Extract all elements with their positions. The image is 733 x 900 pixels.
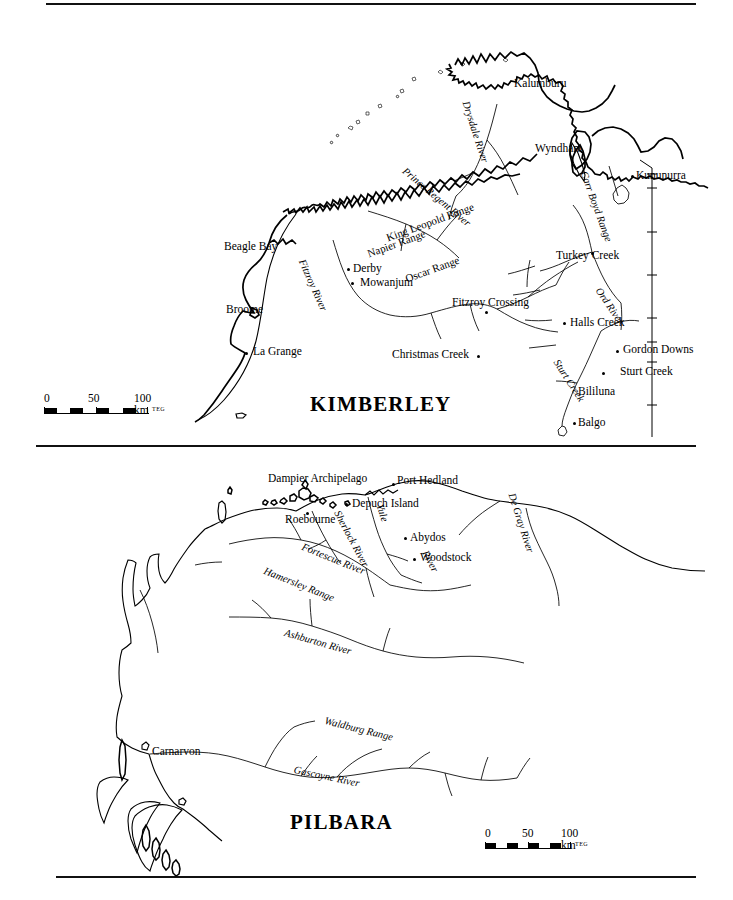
interior-drainage-4: [529, 345, 556, 348]
barrow-island: [218, 501, 226, 523]
yule-tributary-2: [401, 575, 422, 583]
kimberley-title: KIMBERLEY: [310, 392, 452, 417]
settlement-label-la-grange: La Grange: [253, 346, 302, 358]
settlement-label-dampier-archipelago: Dampier Archipelago: [268, 473, 367, 485]
port-hedland-coast-detail: [365, 490, 398, 495]
kimberley-northeast-coast: [592, 127, 683, 159]
de-grey-tributary: [459, 501, 500, 535]
carr-boyd-range-line: [609, 166, 618, 196]
interior-line-p2: [481, 757, 488, 780]
settlement-label-abydos: Abydos: [410, 532, 446, 544]
map-artwork: [0, 0, 733, 900]
scale-mid: 50: [88, 392, 100, 404]
interior-drainage-3: [525, 320, 552, 321]
settlement-label-gordon-downs: Gordon Downs: [623, 344, 694, 356]
pilbara-title: PILBARA: [290, 810, 393, 835]
settlement-label-beagle-bay: Beagle Bay: [224, 241, 277, 253]
scale-zero: 0: [44, 392, 50, 404]
sturt-creek-terminus: [558, 426, 567, 436]
gascoyne-trib-3: [409, 752, 430, 768]
pilbara-scale-numbers: 0 50 100 km: [485, 827, 571, 841]
settlement-label-balgo: Balgo: [578, 417, 605, 429]
interior-line-p3: [517, 758, 530, 778]
de-grey-river: [526, 508, 559, 606]
kimberley-fractal-coast: [283, 174, 520, 213]
north-west-cape: [122, 529, 205, 606]
interior-drainage-5: [527, 260, 530, 287]
settlement-label-kalumburu: Kalumburu: [514, 78, 566, 90]
waldburg-range-line: [294, 721, 315, 727]
fitzroy-tributary-1: [431, 313, 441, 339]
settlement-label-christmas-creek: Christmas Creek: [392, 349, 469, 361]
settlement-label-broome: Broome: [226, 304, 263, 316]
settlement-label-wyndham: Wyndham: [535, 143, 582, 155]
settlement-label-sturt-creek: Sturt Creek: [620, 366, 673, 378]
ashburton-trib-1: [310, 599, 312, 626]
settlement-label-roebourne: Roebourne: [285, 514, 335, 526]
state-border-line-upper: [640, 160, 652, 168]
kimberley-scale-credit: TEG: [152, 406, 165, 412]
settlement-label-carnarvon: Carnarvon: [152, 746, 201, 758]
coast-islet: [236, 413, 246, 418]
drysdale-tributary-east: [487, 140, 518, 195]
fortescue-upper: [390, 585, 471, 591]
drysdale-tributary-west: [454, 172, 474, 181]
waldburg-range-line-2: [337, 749, 382, 777]
scale-mid: 50: [522, 827, 534, 839]
ashburton-trib-3: [252, 600, 271, 618]
ord-river-lower: [573, 205, 592, 252]
pilbara-scale-credit: TEG: [575, 841, 588, 847]
kimberley-scale-numbers: 0 50 100 km: [44, 392, 149, 406]
kimberley-scale-ruler: [44, 408, 149, 414]
settlement-label-port-hedland: Port Hedland: [397, 475, 458, 487]
pilbara-map: [97, 480, 705, 876]
ashburton-trib-2: [383, 628, 390, 651]
settlement-label-kununurra: Kununurra: [636, 170, 686, 182]
shark-bay: [97, 777, 186, 876]
settlement-label-turkey-creek: Turkey Creek: [556, 250, 619, 262]
settlement-label-fitzroy-crossing: Fitzroy Crossing: [452, 297, 529, 309]
interior-drainage-1: [508, 266, 535, 274]
figure-page: Kalumburu Wyndham Kununurra Beagle Bay D…: [0, 0, 733, 900]
pilbara-scale-bar: 0 50 100 km TEG: [485, 827, 571, 849]
scale-zero: 0: [485, 827, 491, 839]
settlement-label-derby: Derby: [353, 263, 382, 275]
gascoyne-trib-1: [265, 727, 294, 767]
kimberley-scale-bar: 0 50 100 km TEG: [44, 392, 149, 414]
carnarvon-coast-notch: [142, 742, 149, 750]
pilbara-scale-ruler: [485, 843, 571, 849]
dirk-hartog-island: [119, 740, 126, 780]
hamersley-slope: [195, 562, 222, 565]
interior-drainage-2: [513, 290, 540, 295]
gascoyne-trib-4: [445, 773, 452, 796]
ashburton-upper: [452, 656, 524, 663]
small-islet-north: [228, 487, 232, 494]
